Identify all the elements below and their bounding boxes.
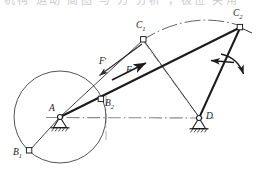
joint-marker-c2 <box>237 24 242 29</box>
label-coupler-c1: C1 <box>136 21 146 32</box>
mechanism-figure: 机构 运动 简图 与 力 分析 ，极位 夹角 <box>0 0 260 171</box>
coupler-link-b1-c1 <box>60 40 143 117</box>
joint-marker-c1 <box>141 37 146 42</box>
rocker-link-c2-d <box>200 28 241 117</box>
motion-arrow-left <box>211 61 234 63</box>
label-pivot-d: D <box>206 112 213 122</box>
coupler-link-a-c2 <box>60 28 240 118</box>
label-crank-b1: B1 <box>13 148 22 159</box>
joint-marker-b2 <box>98 96 103 101</box>
mechanism-drawing <box>0 0 260 171</box>
label-force-f-prime: F′ <box>99 57 107 67</box>
label-pivot-a: A <box>49 104 55 114</box>
frame-centerline-ad <box>46 118 214 119</box>
crank-link-b1-a <box>30 117 61 151</box>
label-crank-b2: B2 <box>105 99 114 110</box>
coupler-path-arc <box>141 20 241 41</box>
joint-marker-b1 <box>26 148 31 153</box>
label-coupler-c2: C2 <box>233 9 243 20</box>
label-force-f: F <box>126 66 132 76</box>
